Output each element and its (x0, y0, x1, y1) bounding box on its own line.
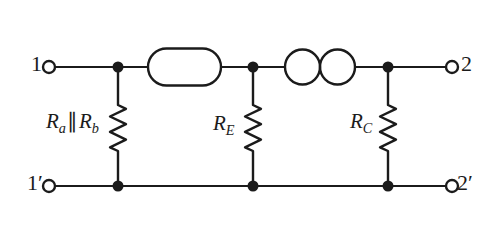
stadium-outline-icon (148, 49, 221, 86)
double-circle-icon-left (285, 50, 320, 85)
rab-sub1: a (59, 120, 66, 136)
re-r: R (213, 111, 226, 135)
resistor-zigzag-icon-rc (380, 67, 396, 186)
parallel-symbol: ∥ (66, 109, 79, 133)
rab-r2: R (79, 109, 92, 133)
junction-dot (383, 181, 394, 192)
circuit-diagram: 1 1′ 2 2′ Ra∥Rb RE RC (0, 0, 493, 249)
resistor-zigzag-icon-re (245, 67, 261, 186)
terminal-2-prime-label: 2′ (457, 172, 473, 194)
rab-sub2: b (92, 120, 99, 136)
junction-dot (383, 62, 394, 73)
re-sub: E (226, 122, 235, 138)
terminal-1-prime-icon (43, 180, 55, 192)
resistor-rc-label: RC (350, 111, 372, 132)
double-circle-icon-right (320, 50, 355, 85)
rab-r1: R (46, 109, 59, 133)
junction-dot (248, 62, 259, 73)
rc-r: R (350, 109, 363, 133)
junction-dot (113, 62, 124, 73)
resistor-zigzag-icon-rab (110, 67, 126, 186)
junction-dot (113, 181, 124, 192)
resistor-re-label: RE (213, 113, 235, 134)
terminal-2-icon (446, 61, 458, 73)
terminal-1-label: 1 (31, 53, 42, 75)
junction-dot (248, 181, 259, 192)
terminal-1-prime-label: 1′ (27, 172, 43, 194)
resistor-rab-label: Ra∥Rb (46, 111, 99, 132)
terminal-circles (43, 61, 458, 192)
rc-sub: C (363, 120, 373, 136)
terminal-1-icon (43, 61, 55, 73)
terminal-2-label: 2 (461, 53, 472, 75)
